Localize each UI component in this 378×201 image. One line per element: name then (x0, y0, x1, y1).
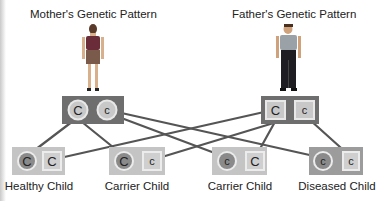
father-allele-2: c (302, 104, 308, 116)
svg-text:c: c (149, 155, 155, 167)
svg-text:C: C (119, 154, 128, 169)
mother-figure-icon (82, 24, 104, 91)
svg-text:c: c (320, 155, 326, 167)
mother-allele-box: C c (62, 96, 124, 124)
label-carrier-child-1: Carrier Child (87, 180, 187, 192)
svg-text:c: c (348, 155, 354, 167)
father-figure-icon (276, 24, 301, 91)
label-diseased-child: Diseased Child (287, 180, 378, 192)
label-healthy-child: Healthy Child (0, 180, 89, 192)
father-allele-1: C (271, 103, 280, 118)
svg-text:C: C (47, 154, 56, 169)
svg-text:c: c (224, 155, 230, 167)
mother-allele-2: c (104, 104, 110, 116)
mother-allele-1: C (73, 103, 82, 118)
child-box-carrier-2: c C (212, 147, 267, 175)
label-carrier-child-2: Carrier Child (190, 180, 290, 192)
inheritance-diagram: C c C c C C C c c C (0, 0, 378, 201)
father-allele-box: C c (261, 96, 319, 124)
child-box-diseased: c c (309, 147, 363, 175)
svg-text:C: C (22, 154, 31, 169)
svg-text:C: C (250, 154, 259, 169)
child-box-carrier-1: C c (109, 147, 165, 175)
child-box-healthy: C C (12, 147, 65, 175)
